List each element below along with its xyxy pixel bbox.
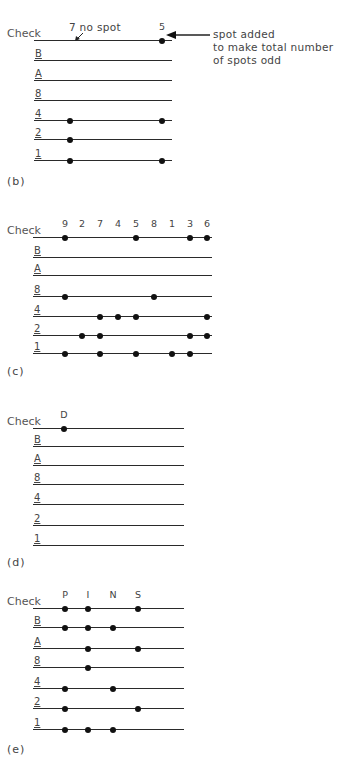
column-label: 2 — [79, 219, 85, 229]
spot-icon — [169, 351, 175, 357]
spot-icon — [97, 351, 103, 357]
track-line-8 — [34, 100, 172, 101]
track-line-check — [33, 608, 184, 609]
row-label-8: 8 — [34, 656, 40, 666]
row-label-4: 4 — [34, 305, 40, 315]
spot-icon — [133, 235, 139, 241]
spot-icon — [67, 118, 73, 124]
track-line-8 — [33, 296, 212, 297]
spot-icon — [85, 665, 91, 671]
row-label-2: 2 — [35, 128, 41, 138]
annotation-arrows — [0, 0, 338, 80]
track-line-4 — [34, 120, 172, 121]
row-label-8: 8 — [35, 89, 41, 99]
track-line-1 — [34, 160, 172, 161]
row-label-1: 1 — [34, 718, 40, 728]
column-label: 7 — [97, 219, 103, 229]
spot-icon — [85, 727, 91, 733]
track-line-1 — [33, 729, 184, 730]
spot-icon — [133, 351, 139, 357]
column-label: I — [87, 590, 90, 600]
spot-icon — [85, 625, 91, 631]
spot-icon — [62, 706, 68, 712]
spot-icon — [62, 727, 68, 733]
spot-icon — [62, 625, 68, 631]
track-line-b — [33, 627, 184, 628]
panel-caption: (d) — [7, 557, 26, 568]
column-label: 5 — [133, 219, 139, 229]
track-line-check — [33, 428, 184, 429]
row-label-check: Check — [7, 225, 41, 236]
spot-icon — [62, 686, 68, 692]
panel-caption: (b) — [7, 176, 26, 187]
track-line-check — [33, 237, 212, 238]
column-label: 8 — [151, 219, 157, 229]
spot-icon — [67, 137, 73, 143]
spot-icon — [204, 235, 210, 241]
row-label-4: 4 — [34, 493, 40, 503]
row-label-1: 1 — [34, 534, 40, 544]
row-label-4: 4 — [35, 109, 41, 119]
row-label-1: 1 — [35, 149, 41, 159]
row-label-check: Check — [7, 416, 41, 427]
panel-caption: (c) — [7, 366, 25, 377]
track-line-a — [33, 465, 184, 466]
column-label: 9 — [62, 219, 68, 229]
column-label: P — [62, 590, 68, 600]
spot-icon — [204, 333, 210, 339]
spot-icon — [79, 333, 85, 339]
column-label: 6 — [204, 219, 210, 229]
column-label: S — [135, 590, 141, 600]
track-line-8 — [33, 667, 184, 668]
track-line-a — [34, 80, 172, 81]
spot-icon — [110, 727, 116, 733]
track-line-b — [33, 446, 184, 447]
spot-icon — [85, 646, 91, 652]
column-label: 4 — [115, 219, 121, 229]
track-line-1 — [33, 545, 184, 546]
spot-icon — [187, 351, 193, 357]
track-line-a — [33, 275, 212, 276]
spot-icon — [135, 606, 141, 612]
track-line-2 — [33, 335, 212, 336]
spot-icon — [187, 235, 193, 241]
track-line-2 — [34, 139, 172, 140]
row-label-1: 1 — [34, 342, 40, 352]
spot-icon — [151, 294, 157, 300]
spot-icon — [62, 235, 68, 241]
track-line-2 — [33, 525, 184, 526]
track-line-4 — [33, 688, 184, 689]
spot-icon — [204, 314, 210, 320]
row-label-b: B — [34, 246, 41, 256]
spot-icon — [62, 294, 68, 300]
spot-icon — [159, 158, 165, 164]
row-label-2: 2 — [34, 697, 40, 707]
spot-icon — [133, 314, 139, 320]
spot-icon — [97, 333, 103, 339]
track-line-8 — [33, 484, 184, 485]
column-label: 3 — [187, 219, 193, 229]
spot-icon — [97, 314, 103, 320]
row-label-check: Check — [7, 596, 41, 607]
row-label-a: A — [34, 454, 41, 464]
row-label-b: B — [34, 616, 41, 626]
row-label-4: 4 — [34, 677, 40, 687]
spot-icon — [135, 646, 141, 652]
column-label: D — [60, 410, 67, 420]
spot-icon — [67, 158, 73, 164]
spot-icon — [135, 706, 141, 712]
column-label: N — [109, 590, 116, 600]
spot-icon — [115, 314, 121, 320]
spot-icon — [110, 686, 116, 692]
panel-caption: (e) — [7, 744, 25, 755]
row-label-a: A — [34, 637, 41, 647]
row-label-a: A — [34, 264, 41, 274]
row-label-b: B — [34, 435, 41, 445]
track-line-b — [33, 257, 212, 258]
spot-icon — [110, 625, 116, 631]
spot-icon — [62, 351, 68, 357]
row-label-8: 8 — [34, 285, 40, 295]
spot-icon — [61, 426, 67, 432]
row-label-2: 2 — [34, 514, 40, 524]
track-line-4 — [33, 504, 184, 505]
